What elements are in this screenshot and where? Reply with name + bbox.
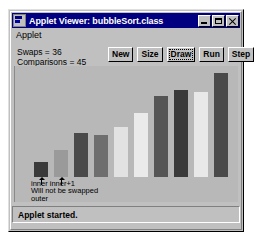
applet-content-area: Swaps = 36 Comparisons = 45 New Size Dra… bbox=[12, 42, 240, 204]
applet-viewer-icon bbox=[13, 14, 26, 27]
size-button[interactable]: Size bbox=[137, 47, 162, 62]
draw-button[interactable]: Draw bbox=[167, 47, 196, 62]
bar bbox=[134, 113, 147, 177]
bar-chart bbox=[31, 73, 231, 177]
menu-bar: Applet bbox=[12, 29, 240, 42]
window-title: Applet Viewer: bubbleSort.class bbox=[29, 16, 195, 26]
menu-item-applet[interactable]: Applet bbox=[12, 30, 46, 41]
inner-plus-one-marker bbox=[58, 177, 65, 185]
stats-readout: Swaps = 36 Comparisons = 45 bbox=[17, 47, 86, 67]
bar bbox=[74, 133, 87, 177]
step-button[interactable]: Step bbox=[228, 47, 252, 62]
minimize-icon[interactable] bbox=[198, 15, 211, 27]
bar bbox=[34, 162, 47, 177]
bar bbox=[94, 135, 107, 177]
title-bar[interactable]: Applet Viewer: bubbleSort.class bbox=[12, 13, 240, 28]
outer-label: outer bbox=[31, 195, 98, 203]
bar bbox=[174, 90, 187, 177]
new-button[interactable]: New bbox=[108, 47, 133, 62]
close-icon[interactable] bbox=[226, 15, 239, 27]
status-text: Applet started. bbox=[13, 210, 78, 220]
sort-visualization-panel: inner inner+1 Will not be swapped outer bbox=[14, 66, 238, 202]
swaps-label: Swaps = 36 bbox=[17, 47, 86, 57]
bar bbox=[114, 127, 127, 177]
bar bbox=[214, 73, 227, 177]
run-button[interactable]: Run bbox=[199, 47, 224, 62]
applet-viewer-window: Applet Viewer: bubbleSort.class Applet S… bbox=[8, 9, 244, 232]
status-bar: Applet started. bbox=[12, 206, 240, 223]
control-buttons: New Size Draw Run Step bbox=[108, 47, 252, 62]
bar bbox=[54, 150, 67, 177]
inner-marker bbox=[38, 177, 45, 185]
maximize-icon[interactable] bbox=[212, 15, 225, 27]
bar bbox=[194, 92, 207, 177]
bar bbox=[154, 96, 167, 177]
